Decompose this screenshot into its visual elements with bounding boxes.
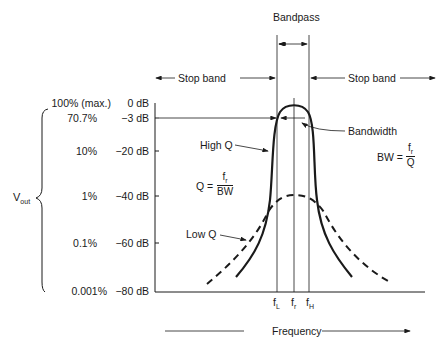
fh-label: fH [306,297,314,310]
vout-brace [36,109,48,292]
fr-label: fr [291,297,296,310]
bandpass-title: Bandpass [273,12,320,23]
frequency-label: Frequency [272,326,322,337]
stop-band-left-label: Stop band [178,73,226,84]
vout-label: Vout [13,192,30,205]
high-q-label: High Q [200,140,233,151]
low-q-curve [207,195,388,284]
stop-band-right-label: Stop band [348,73,396,84]
low-q-label: Low Q [186,229,216,240]
bandwidth-label: Bandwidth [348,126,397,137]
fl-label: fL [273,297,280,310]
